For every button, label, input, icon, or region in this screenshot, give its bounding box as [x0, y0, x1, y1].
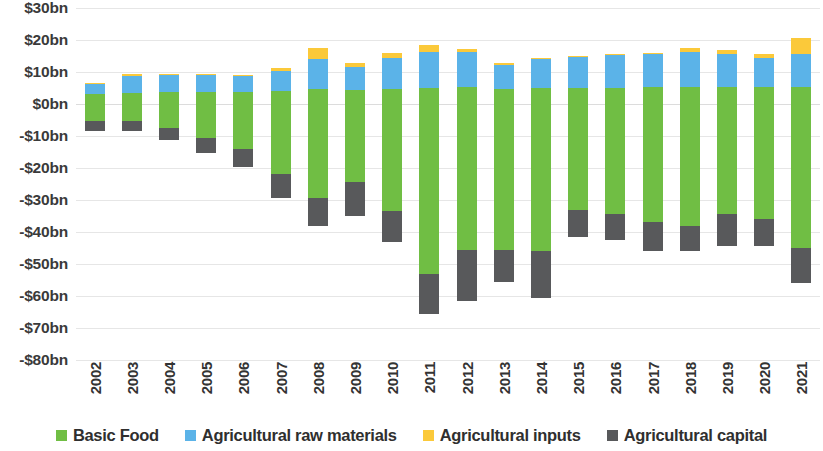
y-axis-tick-label: -$10bn	[19, 127, 68, 145]
bar-segment-basic-food-positive	[85, 94, 105, 104]
bar-group[interactable]	[85, 8, 105, 360]
bar-segment-raw-materials	[159, 75, 179, 92]
bar-segment-capital	[568, 210, 588, 237]
bar-segment-basic-food-negative	[345, 104, 365, 182]
y-axis-tick-label: -$80bn	[19, 351, 68, 369]
x-axis-tick-label: 2006	[235, 362, 252, 394]
bar-segment-inputs	[605, 54, 625, 55]
bar-segment-basic-food-positive	[717, 87, 737, 104]
bar-segment-basic-food-positive	[271, 91, 291, 104]
bar-group[interactable]	[568, 8, 588, 360]
bar-segment-basic-food-positive	[568, 88, 588, 104]
bar-segment-raw-materials	[457, 52, 477, 87]
x-axis-tick-label: 2005	[198, 362, 215, 394]
x-axis-tick-label: 2018	[682, 362, 699, 394]
bar-segment-basic-food-negative	[494, 104, 514, 250]
bar-group[interactable]	[531, 8, 551, 360]
bar-group[interactable]	[233, 8, 253, 360]
bar-group[interactable]	[308, 8, 328, 360]
bar-segment-inputs	[680, 48, 700, 52]
bar-segment-inputs	[494, 63, 514, 65]
legend-swatch-icon	[185, 430, 196, 441]
bar-segment-raw-materials	[643, 53, 663, 87]
bar-segment-raw-materials	[382, 58, 402, 89]
bar-segment-capital	[457, 250, 477, 301]
legend-item-capital[interactable]: Agricultural capital	[607, 426, 767, 445]
bar-segment-inputs	[791, 38, 811, 54]
x-axis-tick-label: 2010	[384, 362, 401, 394]
legend-label: Agricultural inputs	[440, 426, 581, 445]
x-axis-tick-label: 2012	[459, 362, 476, 394]
bar-group[interactable]	[196, 8, 216, 360]
legend-swatch-icon	[607, 430, 618, 441]
x-axis-tick-label: 2002	[87, 362, 104, 394]
bar-group[interactable]	[791, 8, 811, 360]
bar-segment-basic-food-positive	[643, 87, 663, 104]
bar-group[interactable]	[345, 8, 365, 360]
bar-segment-inputs	[85, 83, 105, 84]
bar-group[interactable]	[159, 8, 179, 360]
y-axis-tick-label: -$60bn	[19, 287, 68, 305]
bar-segment-raw-materials	[345, 67, 365, 91]
bar-group[interactable]	[382, 8, 402, 360]
bar-segment-basic-food-negative	[457, 104, 477, 250]
bar-segment-basic-food-positive	[531, 88, 551, 104]
bar-group[interactable]	[680, 8, 700, 360]
x-axis-tick-label: 2015	[570, 362, 587, 394]
x-axis-tick-label: 2016	[607, 362, 624, 394]
bar-segment-raw-materials	[233, 75, 253, 92]
bar-segment-basic-food-positive	[605, 88, 625, 104]
bar-segment-basic-food-negative	[717, 104, 737, 214]
bar-segment-capital	[308, 198, 328, 225]
legend-label: Agricultural raw materials	[202, 426, 397, 445]
bar-segment-basic-food-negative	[643, 104, 663, 222]
bar-segment-inputs	[643, 53, 663, 54]
bar-segment-inputs	[382, 53, 402, 58]
y-axis-tick-label: -$30bn	[19, 191, 68, 209]
bar-segment-inputs	[717, 50, 737, 54]
bar-segment-inputs	[568, 56, 588, 57]
bar-segment-inputs	[457, 49, 477, 52]
legend-label: Agricultural capital	[624, 426, 767, 445]
y-axis-tick-label: -$20bn	[19, 159, 68, 177]
x-axis-tick-label: 2007	[273, 362, 290, 394]
bar-group[interactable]	[494, 8, 514, 360]
bar-group[interactable]	[122, 8, 142, 360]
x-axis-tick-label: 2003	[124, 362, 141, 394]
bar-segment-capital	[717, 214, 737, 246]
bar-segment-inputs	[196, 74, 216, 75]
bar-segment-basic-food-negative	[568, 104, 588, 210]
x-axis-tick-label: 2019	[719, 362, 736, 394]
bar-segment-capital	[122, 121, 142, 132]
bar-segment-capital	[419, 274, 439, 314]
bar-segment-inputs	[531, 58, 551, 59]
bar-segment-capital	[494, 250, 514, 282]
bar-group[interactable]	[754, 8, 774, 360]
bar-segment-basic-food-negative	[754, 104, 774, 219]
legend-item-raw_materials[interactable]: Agricultural raw materials	[185, 426, 397, 445]
legend-item-basic_food[interactable]: Basic Food	[56, 426, 159, 445]
legend-swatch-icon	[56, 430, 67, 441]
bar-group[interactable]	[605, 8, 625, 360]
bar-group[interactable]	[457, 8, 477, 360]
bar-segment-basic-food-positive	[196, 92, 216, 104]
bar-segment-basic-food-negative	[680, 104, 700, 226]
bar-segment-basic-food-negative	[122, 104, 142, 121]
bar-segment-raw-materials	[605, 55, 625, 88]
bar-segment-basic-food-negative	[791, 104, 811, 248]
y-axis-tick-label: -$50bn	[19, 255, 68, 273]
bar-segment-inputs	[271, 68, 291, 71]
bar-group[interactable]	[717, 8, 737, 360]
bar-group[interactable]	[419, 8, 439, 360]
bar-segment-inputs	[233, 75, 253, 76]
x-axis-tick-label: 2009	[347, 362, 364, 394]
y-axis-tick-label: $30bn	[24, 0, 68, 17]
bar-segment-raw-materials	[754, 58, 774, 88]
bar-segment-basic-food-positive	[457, 87, 477, 104]
bar-group[interactable]	[271, 8, 291, 360]
bar-segment-basic-food-negative	[531, 104, 551, 251]
bar-group[interactable]	[643, 8, 663, 360]
bar-segment-basic-food-negative	[271, 104, 291, 174]
y-axis-tick-label: $10bn	[24, 63, 68, 81]
legend-item-inputs[interactable]: Agricultural inputs	[423, 426, 581, 445]
